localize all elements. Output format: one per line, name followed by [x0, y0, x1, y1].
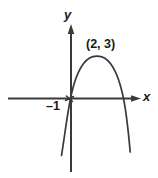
coordinate-plane-svg: [0, 0, 158, 178]
parabola-graph-figure: y x (2, 3) –1: [0, 0, 158, 178]
y-axis-arrowhead-icon: [68, 24, 75, 34]
vertex-coordinate-label: (2, 3): [86, 38, 115, 51]
x-axis: [8, 95, 141, 102]
y-axis-label: y: [64, 8, 71, 21]
x-axis-label: x: [143, 90, 150, 103]
x-intercept-value-label: –1: [46, 100, 60, 113]
x-axis-arrowhead-icon: [131, 95, 141, 102]
